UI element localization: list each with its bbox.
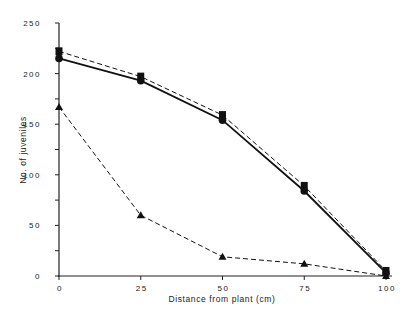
y-tick-label: 0 xyxy=(35,272,41,281)
x-axis-label: Distance from plant (cm) xyxy=(169,294,276,304)
y-tick-label: 50 xyxy=(29,221,41,230)
series-triangle xyxy=(55,103,390,279)
x-tick-label: 25 xyxy=(136,284,148,293)
line-chart: 0501001502002500255075100 Distance from … xyxy=(0,0,411,314)
x-tick-label: 100 xyxy=(378,284,396,293)
y-axis-label: No. of juveniles xyxy=(18,116,28,184)
y-tick-label: 250 xyxy=(23,19,41,28)
series-circle xyxy=(55,55,390,277)
circle-marker xyxy=(219,116,227,124)
circle-marker xyxy=(137,77,145,85)
x-tick-label: 0 xyxy=(57,284,63,293)
circle-marker xyxy=(55,55,63,63)
triangle-marker xyxy=(219,253,227,260)
y-tick-label: 200 xyxy=(23,70,41,79)
triangle-marker xyxy=(55,103,63,110)
series-line xyxy=(59,58,386,273)
series-line xyxy=(59,107,386,276)
x-tick-label: 50 xyxy=(218,284,230,293)
square-marker xyxy=(56,47,63,55)
series-group xyxy=(55,47,390,279)
axes: 0501001502002500255075100 xyxy=(23,19,396,293)
x-tick-label: 75 xyxy=(299,284,311,293)
series-line xyxy=(59,51,386,271)
series-square xyxy=(56,47,390,275)
circle-marker xyxy=(300,187,308,195)
